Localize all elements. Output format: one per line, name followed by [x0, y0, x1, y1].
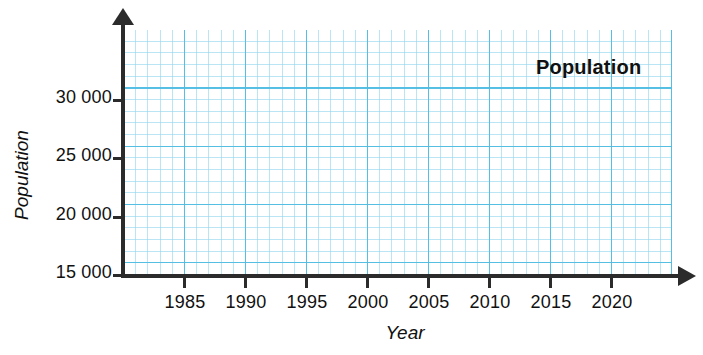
y-axis-tick-label: 15 000: [2, 262, 112, 283]
y-axis-title: Population: [11, 130, 33, 220]
x-axis-arrow-icon: [678, 266, 696, 286]
y-axis-line: [121, 22, 125, 278]
y-axis-tick: [113, 99, 125, 102]
y-axis-tick: [113, 274, 125, 277]
population-grid-chart: Population 30 000 25 000 20 000 15 000 1…: [0, 0, 703, 355]
y-axis-tick-label: 30 000: [2, 87, 112, 108]
x-axis-tick: [610, 278, 613, 288]
x-axis-line: [121, 274, 681, 278]
y-axis-tick: [113, 157, 125, 160]
x-axis-tick: [549, 278, 552, 288]
x-axis-tick: [366, 278, 369, 288]
x-axis-tick: [305, 278, 308, 288]
x-axis-tick: [244, 278, 247, 288]
x-axis-tick-label: 2020: [572, 292, 652, 313]
y-axis-tick: [113, 216, 125, 219]
chart-title: Population: [536, 56, 641, 79]
x-axis-tick: [427, 278, 430, 288]
x-axis-title: Year: [385, 322, 424, 344]
x-axis-tick: [488, 278, 491, 288]
x-axis-tick: [183, 278, 186, 288]
y-axis-arrow-icon: [112, 8, 134, 25]
